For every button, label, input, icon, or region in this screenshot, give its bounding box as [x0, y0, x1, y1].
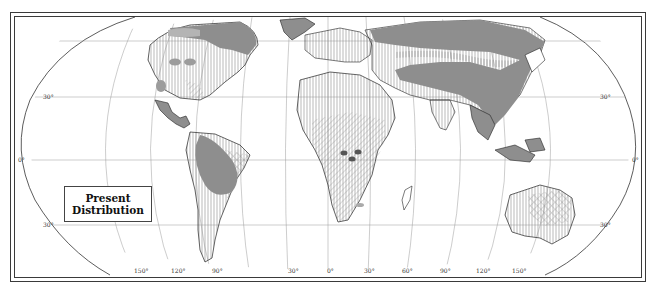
lon-label-0: 0° [327, 267, 334, 274]
lon-label-60e: 60° [402, 267, 413, 274]
north-america [148, 18, 315, 128]
world-map: 30° 0° 30° 30° 0° 30° 150° 120° 90° 30° … [0, 0, 657, 290]
lon-label-90e: 90° [440, 267, 451, 274]
lon-label-30e: 30° [364, 267, 375, 274]
lat-label-left-30n: 30° [43, 93, 54, 100]
asia [365, 20, 545, 162]
australia [505, 185, 575, 244]
south-america [186, 132, 250, 262]
lon-label-150e: 150° [512, 267, 526, 274]
lat-label-right-30s: 30° [600, 221, 611, 228]
title-line-1: Present [85, 192, 130, 204]
lon-label-120e: 120° [476, 267, 490, 274]
lon-label-30w: 30° [288, 267, 299, 274]
lon-label-90w: 90° [212, 267, 223, 274]
present-distribution-label: Present Distribution [64, 186, 152, 222]
lat-label-left-30s: 30° [43, 221, 54, 228]
lon-label-150w: 150° [134, 267, 148, 274]
title-line-2: Distribution [72, 204, 144, 216]
lat-label-right-0: 0° [632, 156, 639, 163]
lat-label-right-30n: 30° [600, 93, 611, 100]
lat-label-left-0: 0° [18, 156, 25, 163]
lon-label-120w: 120° [171, 267, 185, 274]
